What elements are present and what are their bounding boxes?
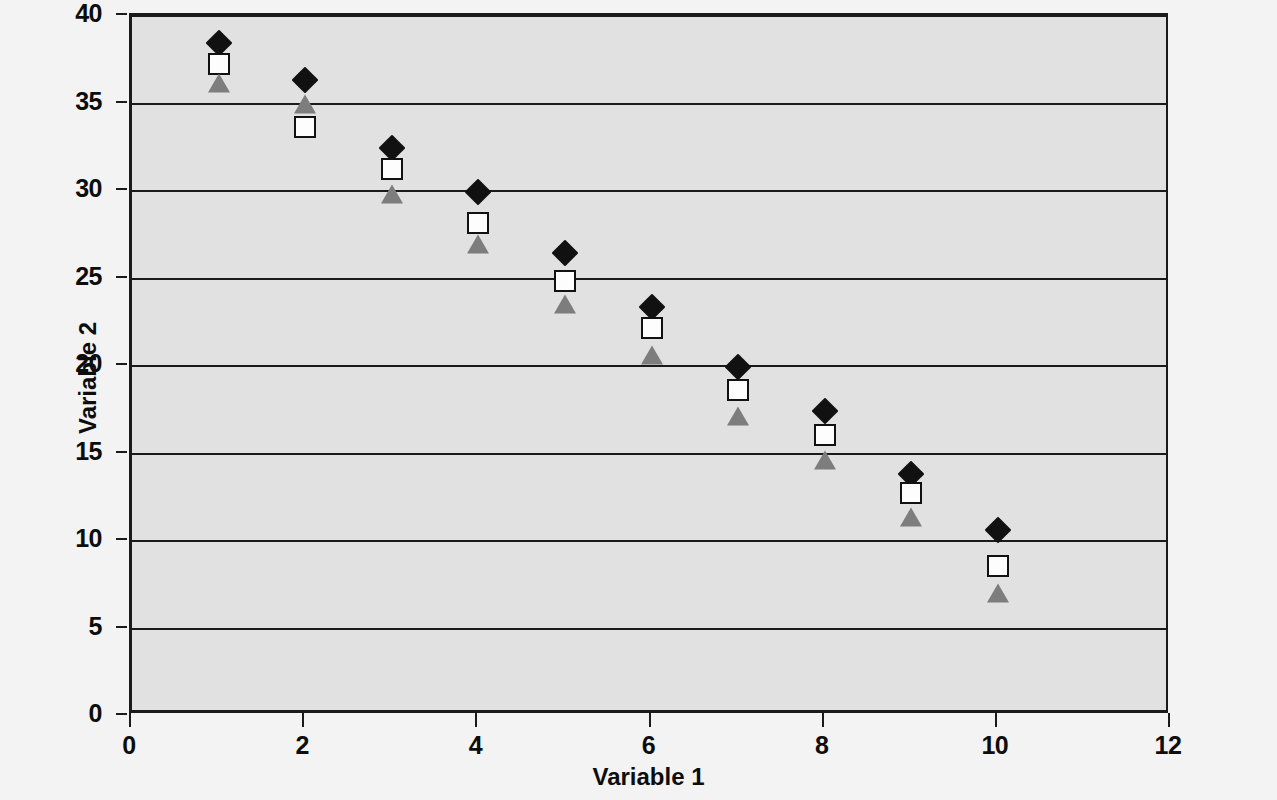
data-point-square <box>208 53 230 75</box>
y-axis-tick-label: 0 <box>14 699 102 728</box>
data-point-triangle <box>814 450 836 469</box>
y-axis-tick <box>116 276 127 278</box>
plot-area <box>129 13 1168 713</box>
y-axis-tick-label: 30 <box>14 174 102 203</box>
y-axis-title: Variable 2 <box>74 248 102 508</box>
data-point-triangle <box>467 235 489 254</box>
data-point-square <box>641 317 663 339</box>
data-point-square <box>554 270 576 292</box>
y-axis-tick-label: 40 <box>14 0 102 28</box>
x-axis-tick-label: 10 <box>960 731 1030 760</box>
x-axis-tick <box>475 713 477 727</box>
data-point-diamond <box>465 178 492 205</box>
data-point-triangle <box>381 184 403 203</box>
gridline <box>132 453 1166 455</box>
y-axis-tick <box>116 188 127 190</box>
y-axis-tick <box>116 626 127 628</box>
data-point-triangle <box>554 294 576 313</box>
y-axis-tick-label: 35 <box>14 86 102 115</box>
data-point-triangle <box>900 508 922 527</box>
data-point-square <box>294 116 316 138</box>
x-axis-tick-label: 4 <box>440 731 510 760</box>
data-point-square <box>987 555 1009 577</box>
y-axis-tick <box>116 101 127 103</box>
gridline <box>132 103 1166 105</box>
x-axis-tick <box>995 713 997 727</box>
data-point-diamond <box>984 516 1011 543</box>
x-axis-tick-label: 6 <box>614 731 684 760</box>
x-axis-tick <box>822 713 824 727</box>
y-axis-tick-label: 5 <box>14 611 102 640</box>
data-point-square <box>814 424 836 446</box>
data-point-square <box>467 212 489 234</box>
gridline <box>132 628 1166 630</box>
gridline <box>132 365 1166 367</box>
data-point-triangle <box>208 74 230 93</box>
data-point-diamond <box>725 353 752 380</box>
x-axis-tick-label: 12 <box>1133 731 1203 760</box>
y-axis-tick <box>116 13 127 15</box>
y-axis-tick <box>116 713 127 715</box>
data-point-diamond <box>292 66 319 93</box>
x-axis-tick <box>1168 713 1170 727</box>
gridline <box>132 15 1166 17</box>
x-axis-title: Variable 1 <box>129 763 1168 791</box>
chart-figure: 0510152025303540 024681012 Variable 2 Va… <box>0 0 1277 800</box>
data-point-square <box>900 482 922 504</box>
y-axis-tick-label: 10 <box>14 524 102 553</box>
x-axis-tick-label: 2 <box>267 731 337 760</box>
gridline <box>132 190 1166 192</box>
data-point-triangle <box>727 406 749 425</box>
x-axis-tick <box>129 713 131 727</box>
x-axis-tick-label: 0 <box>94 731 164 760</box>
data-point-triangle <box>987 583 1009 602</box>
y-axis-tick <box>116 538 127 540</box>
y-axis-tick <box>116 363 127 365</box>
x-axis-tick-label: 8 <box>787 731 857 760</box>
data-point-diamond <box>551 240 578 267</box>
gridline <box>132 540 1166 542</box>
x-axis-tick <box>302 713 304 727</box>
x-axis-tick <box>649 713 651 727</box>
data-point-triangle <box>641 345 663 364</box>
data-point-square <box>727 379 749 401</box>
y-axis-tick <box>116 451 127 453</box>
gridline <box>132 278 1166 280</box>
data-point-triangle <box>294 95 316 114</box>
data-point-square <box>381 158 403 180</box>
data-point-diamond <box>811 397 838 424</box>
